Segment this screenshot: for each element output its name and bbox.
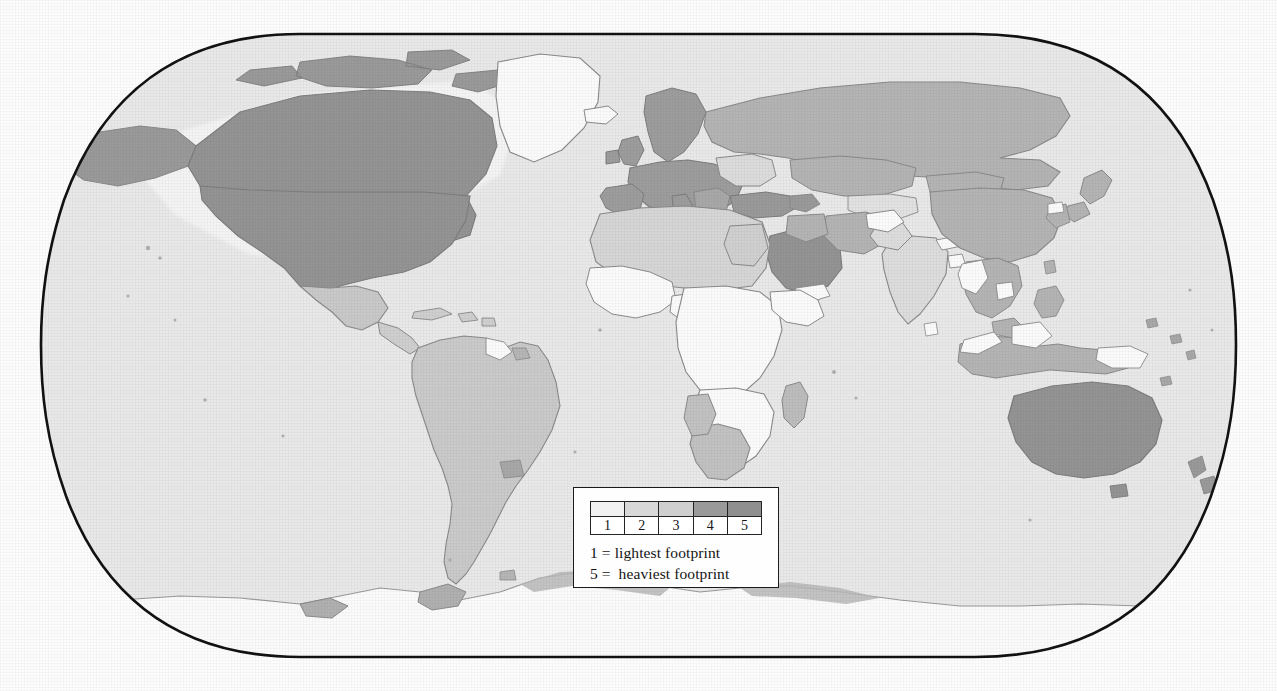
legend-swatch-4 — [694, 502, 728, 516]
legend-swatch-5 — [728, 502, 761, 516]
region-sri-lanka — [924, 322, 938, 336]
region-uruguay — [500, 460, 524, 478]
legend-class-label-2: 2 — [625, 517, 659, 534]
region-north-korea — [1048, 202, 1064, 214]
legend-swatch-1 — [591, 502, 625, 516]
legend-number-row: 1 2 3 4 5 — [590, 516, 762, 535]
legend-class-label-1: 1 — [591, 517, 625, 534]
legend-swatch-3 — [659, 502, 693, 516]
legend-class-label-4: 4 — [694, 517, 728, 534]
legend-caption-block: 1 = lightest footprint 5 = heaviest foot… — [590, 542, 762, 584]
region-taiwan — [1044, 260, 1056, 274]
legend-caption-lightest: 1 = lightest footprint — [590, 542, 762, 563]
legend-class-label-3: 3 — [659, 517, 693, 534]
legend-class-label-5: 5 — [728, 517, 761, 534]
legend-swatch-2 — [625, 502, 659, 516]
world-footprint-map-figure: 1 2 3 4 5 1 = lightest footprint 5 = hea… — [0, 0, 1277, 691]
footprint-scale-legend: 1 2 3 4 5 1 = lightest footprint 5 = hea… — [573, 487, 779, 588]
legend-caption-heaviest: 5 = heaviest footprint — [590, 563, 762, 584]
region-falkland-islands — [500, 570, 516, 580]
region-tasmania — [1110, 484, 1128, 498]
legend-swatch-row — [590, 501, 762, 516]
